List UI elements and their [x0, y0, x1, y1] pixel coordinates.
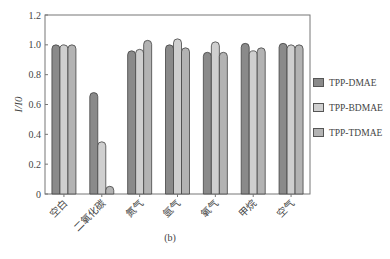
legend-swatch: [313, 103, 324, 112]
x-tick-label: 氮气: [122, 197, 145, 220]
bar: [295, 45, 303, 194]
x-tick-label: 二氧化碳: [70, 197, 107, 234]
x-tick-label: 氩气: [160, 197, 183, 220]
bar: [287, 45, 295, 194]
y-tick-label: 0.2: [29, 159, 42, 170]
bar: [279, 43, 287, 194]
legend-swatch: [313, 78, 324, 87]
legend-item: TPP-TDMAE: [313, 120, 383, 145]
x-tick-label: 甲烷: [236, 197, 259, 220]
bar: [211, 42, 219, 194]
bar: [60, 45, 68, 194]
legend-label: TPP-BDMAE: [329, 103, 383, 113]
bar: [203, 52, 211, 194]
bar: [128, 51, 136, 194]
y-tick-label: 0.6: [29, 99, 42, 110]
legend-swatch: [313, 128, 324, 137]
x-tick-label: 空气: [274, 197, 297, 220]
x-tick-label: 空白: [47, 197, 70, 220]
legend: TPP-DMAE TPP-BDMAE TPP-TDMAE: [313, 70, 383, 145]
y-tick-label: 0.8: [29, 69, 42, 80]
bar: [98, 142, 106, 194]
bar: [182, 48, 190, 194]
figure-caption: (b): [0, 232, 340, 243]
legend-item: TPP-BDMAE: [313, 95, 383, 120]
bar: [257, 48, 265, 194]
x-tick-label: 氧气: [198, 197, 221, 220]
bar: [68, 45, 76, 194]
bar: [249, 51, 257, 194]
legend-item: TPP-DMAE: [313, 70, 383, 95]
y-tick-label: 1.2: [29, 10, 42, 21]
legend-label: TPP-TDMAE: [329, 128, 382, 138]
legend-label: TPP-DMAE: [329, 78, 377, 88]
y-tick-label: 0.4: [29, 129, 42, 140]
bar: [90, 93, 98, 194]
bar: [241, 43, 249, 194]
bar: [136, 49, 144, 194]
bar: [106, 186, 114, 194]
bar: [219, 52, 227, 194]
y-tick-label: 1.0: [29, 39, 42, 50]
bar: [52, 45, 60, 194]
y-tick-label: 0: [36, 189, 41, 200]
bar: [174, 39, 182, 194]
bar: [166, 45, 174, 194]
y-axis-label: I/I0: [12, 96, 24, 113]
bar: [144, 40, 152, 194]
